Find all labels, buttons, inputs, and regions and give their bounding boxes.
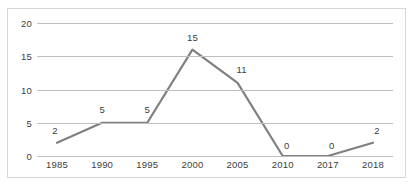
y-axis: 05101520 <box>8 23 32 156</box>
x-axis: 19851990199520002005201020172018 <box>37 159 393 175</box>
gridline <box>37 123 393 124</box>
gridline <box>37 156 393 157</box>
x-axis-tick-label: 2000 <box>181 159 203 170</box>
series-polyline <box>57 50 373 156</box>
y-axis-tick-label: 5 <box>27 117 32 128</box>
x-axis-tick-label: 2010 <box>272 159 294 170</box>
x-axis-tick-label: 1995 <box>136 159 158 170</box>
y-axis-tick-label: 0 <box>27 151 32 162</box>
plot-area: 2551511002 <box>37 23 393 156</box>
line-chart: 05101520 2551511002 19851990199520002005… <box>0 0 418 193</box>
x-axis-tick-label: 1985 <box>46 159 68 170</box>
y-axis-tick-label: 10 <box>21 84 32 95</box>
x-axis-tick-label: 1990 <box>91 159 113 170</box>
gridline <box>37 23 393 24</box>
y-axis-tick-label: 20 <box>21 18 32 29</box>
x-axis-tick-label: 2017 <box>317 159 339 170</box>
gridline <box>37 90 393 91</box>
x-axis-tick-label: 2018 <box>362 159 384 170</box>
gridline <box>37 56 393 57</box>
y-axis-tick-label: 15 <box>21 51 32 62</box>
chart-caption <box>0 183 418 193</box>
x-axis-tick-label: 2005 <box>227 159 249 170</box>
